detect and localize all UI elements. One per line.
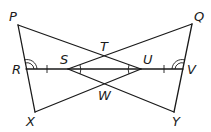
label-Q: Q [194,9,204,24]
label-P: P [9,9,17,24]
diagram-canvas: P Q R S T U V W X Y [0,0,211,132]
label-R: R [12,62,21,77]
label-V: V [187,62,197,77]
label-W: W [98,88,112,103]
label-Y: Y [172,114,181,129]
segment-PU [18,25,141,69]
segment-YS [68,69,174,112]
segment-XU [35,69,141,112]
label-T: T [100,39,109,54]
label-S: S [60,52,68,67]
geometry-diagram: P Q R S T U V W X Y [0,0,211,132]
segment-QS [68,24,192,69]
label-U: U [143,52,153,67]
label-X: X [25,114,36,129]
